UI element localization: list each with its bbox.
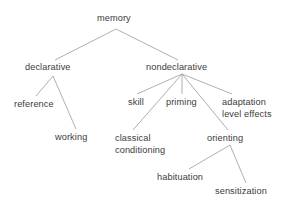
tree-node-nondeclarative: nondeclarative [146,62,207,74]
tree-node-habituation: habituation [157,172,203,184]
tree-node-sensitization: sensitization [215,186,267,198]
tree-node-working: working [55,132,87,144]
memory-taxonomy-diagram: memorydeclarativenondeclarativereference… [0,0,289,205]
tree-edge-memory-to-declarative [55,29,116,60]
tree-node-declarative: declarative [25,62,71,74]
tree-edge-declarative-to-working [53,76,76,129]
tree-node-conditioning: conditioning [115,145,165,157]
tree-node-reference: reference [14,99,54,111]
tree-node-orienting: orienting [207,133,243,145]
tree-node-priming: priming [166,97,197,109]
tree-node-skill: skill [128,97,144,109]
tree-edge-nondeclarative-to-adaptation [182,74,232,94]
tree-edge-declarative-to-reference [36,76,53,96]
tree-edge-nondeclarative-to-skill [137,74,182,94]
tree-node-memory: memory [97,13,131,25]
tree-node-classical: classical [115,133,151,145]
tree-edge-orienting-to-habituation [189,145,230,169]
tree-node-level-effects: level effects [222,109,272,121]
tree-node-adaptation: adaptation [222,97,266,109]
tree-edge-orienting-to-sensitization [230,145,246,183]
tree-edge-memory-to-nondeclarative [116,29,178,60]
